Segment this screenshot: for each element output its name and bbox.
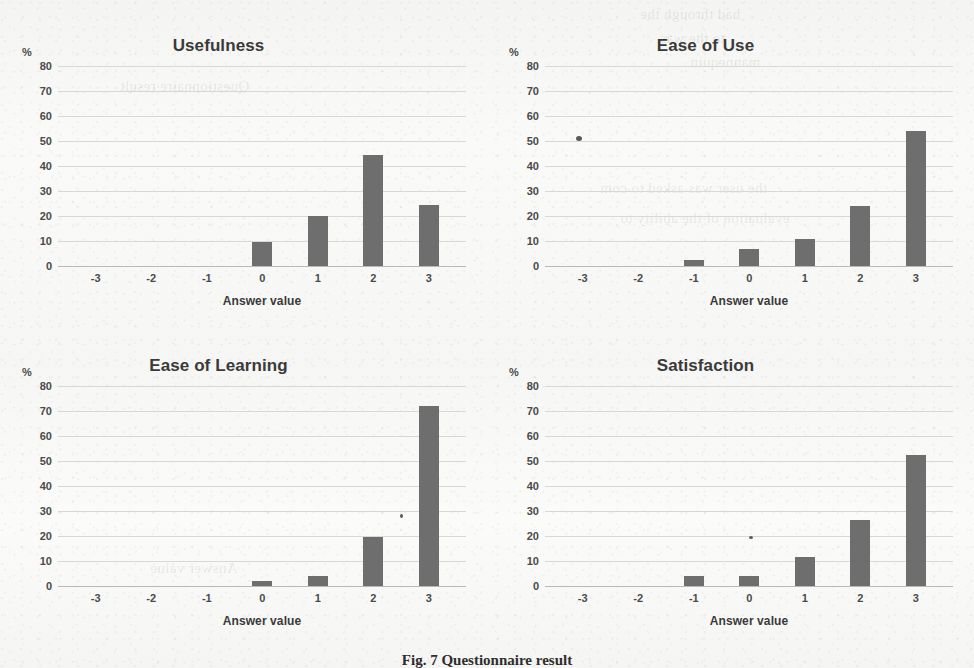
bar [906, 455, 926, 586]
gridline [545, 386, 953, 387]
x-axis-tick-label: 3 [426, 272, 432, 284]
gridline [58, 91, 466, 92]
y-axis-tick-label: 20 [18, 210, 52, 222]
y-axis-tick-label: 50 [18, 455, 52, 467]
gridline [58, 141, 466, 142]
chart-panel-usefulness: % Usefulness 80706050403020100-3-2-10123… [0, 24, 487, 324]
x-axis-tick-label: 1 [315, 592, 321, 604]
bar [419, 406, 439, 586]
x-axis-line [58, 266, 466, 267]
y-axis-tick-label: 70 [18, 85, 52, 97]
x-axis-tick-label: -2 [146, 592, 156, 604]
x-axis-tick-label: -1 [689, 592, 699, 604]
gridline [58, 166, 466, 167]
x-axis-tick-label: 2 [857, 592, 863, 604]
y-axis-tick-label: 30 [505, 185, 539, 197]
y-axis-tick-label: 60 [18, 110, 52, 122]
y-axis-tick-label: 40 [505, 160, 539, 172]
gridline [545, 66, 953, 67]
gridline [58, 411, 466, 412]
y-axis-tick-label: 20 [505, 210, 539, 222]
y-axis-tick-label: 30 [505, 505, 539, 517]
x-axis-tick-label: 3 [913, 272, 919, 284]
gridline [545, 486, 953, 487]
x-axis-tick-label: 0 [746, 592, 752, 604]
y-axis-tick-label: 40 [18, 160, 52, 172]
x-axis-label: Answer value [58, 294, 466, 308]
chart-title: Ease of Use [462, 36, 949, 56]
y-axis-tick-label: 70 [18, 405, 52, 417]
gridline [545, 166, 953, 167]
x-axis-tick-label: 3 [426, 592, 432, 604]
bar [850, 520, 870, 586]
x-axis-line [58, 586, 466, 587]
figure-page: had through the to the was mannequin Que… [0, 0, 974, 668]
bar [308, 216, 328, 266]
chart-title: Ease of Learning [0, 356, 462, 376]
gridline [545, 241, 953, 242]
y-axis-tick-label: 40 [18, 480, 52, 492]
x-axis-tick-label: -2 [633, 592, 643, 604]
plot-area: 80706050403020100-3-2-10123 [58, 66, 466, 266]
y-axis-tick-label: 20 [18, 530, 52, 542]
gridline [545, 116, 953, 117]
y-axis-tick-label: 60 [18, 430, 52, 442]
y-axis-tick-label: 50 [505, 135, 539, 147]
gridline [545, 461, 953, 462]
x-axis-tick-label: 1 [802, 592, 808, 604]
bar [739, 249, 759, 267]
y-axis-tick-label: 80 [18, 380, 52, 392]
y-axis-tick-label: 70 [505, 405, 539, 417]
bar [363, 537, 383, 586]
y-axis-tick-label: 80 [505, 380, 539, 392]
x-axis-tick-label: 0 [746, 272, 752, 284]
bar [795, 557, 815, 586]
x-axis-tick-label: 0 [259, 592, 265, 604]
y-axis-tick-label: 60 [505, 110, 539, 122]
y-axis-tick-label: 20 [505, 530, 539, 542]
y-axis-tick-label: 0 [505, 260, 539, 272]
gridline [545, 561, 953, 562]
y-axis-tick-label: 10 [18, 555, 52, 567]
gridline [58, 486, 466, 487]
x-axis-tick-label: -2 [146, 272, 156, 284]
bar [906, 131, 926, 266]
y-axis-tick-label: 40 [505, 480, 539, 492]
bar [684, 576, 704, 586]
gridline [58, 536, 466, 537]
bar [252, 242, 272, 266]
bar [363, 155, 383, 266]
plot-area: 80706050403020100-3-2-10123 [545, 66, 953, 266]
x-axis-tick-label: 3 [913, 592, 919, 604]
gridline [545, 436, 953, 437]
y-axis-tick-label: 10 [18, 235, 52, 247]
gridline [58, 116, 466, 117]
x-axis-label: Answer value [58, 614, 466, 628]
x-axis-line [545, 266, 953, 267]
bar [684, 260, 704, 266]
gridline [58, 461, 466, 462]
x-axis-tick-label: -3 [91, 272, 101, 284]
gridline [58, 436, 466, 437]
bar [850, 206, 870, 266]
gridline [58, 66, 466, 67]
gridline [58, 216, 466, 217]
y-axis-tick-label: 0 [18, 260, 52, 272]
gridline [545, 191, 953, 192]
bleed-text: had through the [640, 6, 740, 23]
chart-panel-ease-of-learning: % Ease of Learning 80706050403020100-3-2… [0, 344, 487, 644]
y-axis-tick-label: 30 [18, 505, 52, 517]
gridline [545, 536, 953, 537]
chart-panel-ease-of-use: % Ease of Use 80706050403020100-3-2-1012… [487, 24, 974, 324]
x-axis-tick-label: -3 [578, 272, 588, 284]
plot-area: 80706050403020100-3-2-10123 [58, 386, 466, 586]
gridline [545, 141, 953, 142]
bar [419, 205, 439, 266]
x-axis-tick-label: -3 [578, 592, 588, 604]
gridline [545, 216, 953, 217]
x-axis-tick-label: -1 [689, 272, 699, 284]
x-axis-line [545, 586, 953, 587]
bar [252, 581, 272, 586]
x-axis-label: Answer value [545, 614, 953, 628]
bar [739, 576, 759, 586]
